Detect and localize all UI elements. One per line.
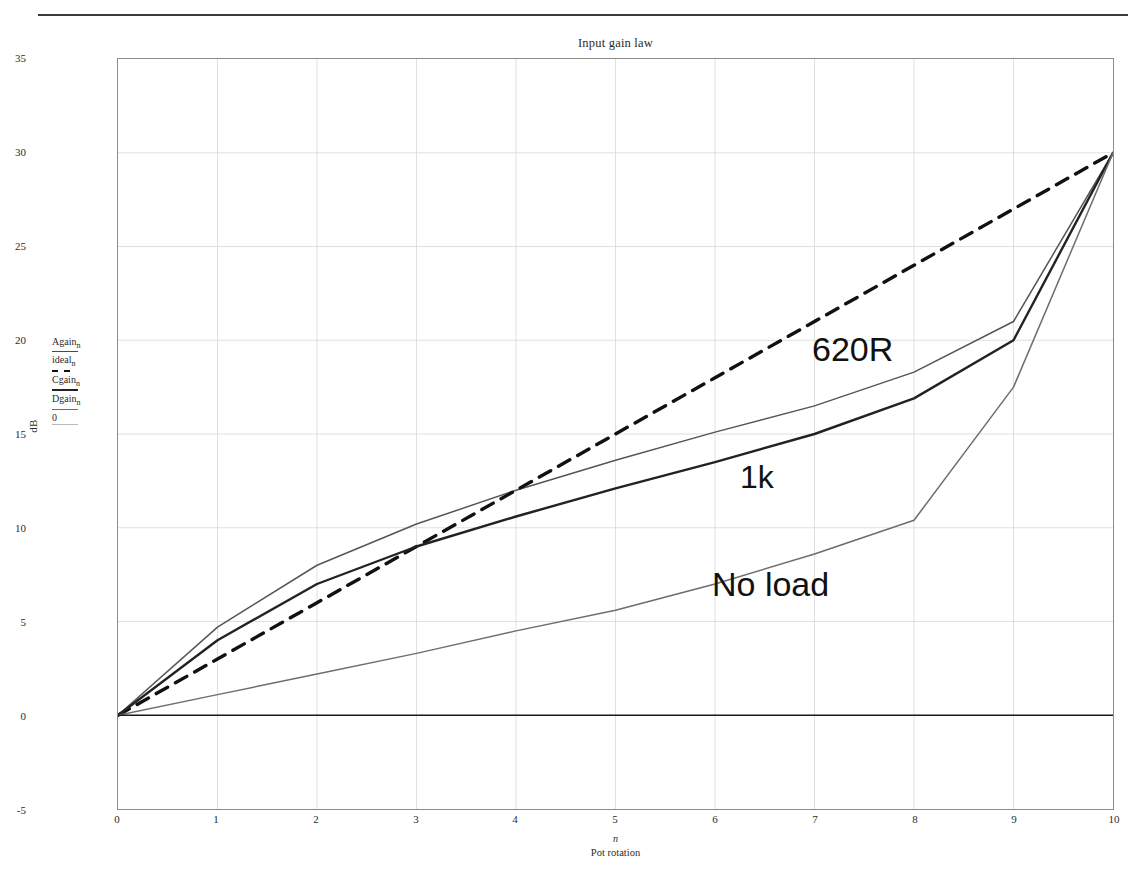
y-tick-30: 30 (0, 146, 26, 158)
x-tick-0: 0 (97, 813, 137, 825)
y-tick-15: 15 (0, 428, 26, 440)
y-tick-0: 0 (0, 710, 26, 722)
x-tick-2: 2 (296, 813, 336, 825)
y-tick-neg5: -5 (0, 804, 26, 816)
legend-sub-dgain: n (76, 398, 80, 407)
legend-text-ideal: ideal (52, 354, 71, 365)
legend-entry-zero: 0 (52, 413, 112, 426)
y-tick-20: 20 (0, 334, 26, 346)
x-tick-1: 1 (196, 813, 236, 825)
legend-swatch-ideal (52, 370, 70, 372)
legend-label-ideal: idealn (52, 355, 112, 368)
legend-entry-ideal: idealn (52, 355, 112, 371)
legend-swatch-again (52, 351, 78, 352)
y-tick-10: 10 (0, 522, 26, 534)
x-tick-5: 5 (595, 813, 635, 825)
legend-swatch-zero (52, 424, 78, 425)
chart-title: Input gain law (117, 36, 1114, 51)
legend-text-again: Again (52, 336, 76, 347)
legend-text-cgain: Cgain (52, 374, 76, 385)
legend-entry-again: Againn (52, 337, 112, 352)
x-axis-description: Pot rotation (591, 847, 640, 858)
plot-area (117, 58, 1114, 810)
x-tick-7: 7 (795, 813, 835, 825)
y-tick-25: 25 (0, 240, 26, 252)
x-tick-3: 3 (396, 813, 436, 825)
legend-text-dgain: Dgain (52, 393, 76, 404)
legend-label-dgain: Dgainn (52, 394, 112, 407)
x-tick-8: 8 (895, 813, 935, 825)
chart-legend: Againn idealn Cgainn Dgainn 0 (52, 337, 112, 428)
annotation-1k: 1k (740, 459, 774, 496)
legend-swatch-dgain (52, 409, 78, 410)
x-tick-4: 4 (495, 813, 535, 825)
x-axis-title: n Pot rotation (117, 833, 1114, 859)
y-tick-5: 5 (0, 616, 26, 628)
legend-sub-ideal: n (71, 359, 75, 368)
legend-entry-cgain: Cgainn (52, 375, 112, 391)
plot-canvas (118, 59, 1113, 809)
legend-entry-dgain: Dgainn (52, 394, 112, 409)
legend-sub-cgain: n (76, 379, 80, 388)
x-axis-variable: n (117, 833, 1114, 846)
legend-label-cgain: Cgainn (52, 375, 112, 388)
x-tick-6: 6 (695, 813, 735, 825)
annotation-no-load: No load (712, 565, 829, 604)
x-tick-10: 10 (1094, 813, 1134, 825)
annotation-620r: 620R (812, 330, 893, 369)
x-tick-9: 9 (994, 813, 1034, 825)
legend-sub-again: n (76, 341, 80, 350)
legend-swatch-cgain (52, 389, 78, 391)
legend-label-zero: 0 (52, 413, 112, 424)
chart-figure: Input gain law 35 30 25 20 15 10 5 0 -5 … (0, 0, 1148, 885)
y-axis-title: dB (27, 419, 39, 432)
y-tick-35: 35 (0, 52, 26, 64)
legend-label-again: Againn (52, 337, 112, 350)
